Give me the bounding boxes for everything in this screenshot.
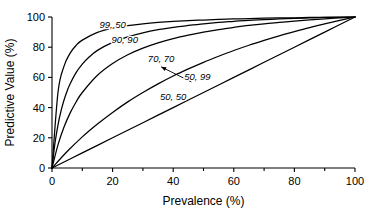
y-tick-label: 80 [33, 41, 45, 53]
chart-canvas: 020406080100020406080100 Prevalence (%) … [0, 0, 373, 222]
curve-label: 90, 90 [112, 34, 139, 45]
predictive-value-chart: 020406080100020406080100 Prevalence (%) … [0, 0, 373, 222]
x-tick-label: 40 [167, 175, 179, 187]
y-tick-label: 100 [27, 11, 45, 23]
y-axis-title: Predictive Value (%) [3, 39, 17, 147]
y-tick-label: 20 [33, 132, 45, 144]
x-tick-label: 60 [228, 175, 240, 187]
curve-50-50 [52, 17, 355, 168]
y-tick-label: 60 [33, 71, 45, 83]
curve-label: 70, 70 [148, 53, 175, 64]
curve-label: 99, 50 [99, 19, 126, 30]
x-axis-ticks [52, 168, 355, 172]
curve-label: 50, 50 [160, 91, 187, 102]
x-tick-label: 20 [106, 175, 118, 187]
x-tick-label: 100 [346, 175, 364, 187]
y-axis-ticks [48, 17, 52, 168]
y-tick-label: 40 [33, 102, 45, 114]
x-axis-title: Prevalence (%) [162, 194, 244, 208]
x-tick-label: 80 [288, 175, 300, 187]
y-tick-label: 0 [39, 162, 45, 174]
curve-label: 50, 99 [184, 71, 211, 82]
x-tick-label: 0 [49, 175, 55, 187]
curve-label-group: 99, 5099, 5090, 9090, 9070, 7070, 7050, … [99, 19, 211, 102]
curve-group [52, 17, 355, 168]
